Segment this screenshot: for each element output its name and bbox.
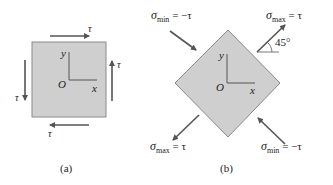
- caption-a: (a): [60, 162, 73, 175]
- sigma-max-arrow-bottom: [173, 115, 199, 140]
- sigma-min-arrow-top: [170, 31, 196, 50]
- caption-b: (b): [220, 162, 233, 175]
- tau-label-bottom: τ: [48, 128, 52, 139]
- sigma-min-label-top: σmin = −τ: [151, 8, 192, 24]
- tau-label-right: τ: [117, 59, 121, 70]
- tau-label-top: τ: [88, 23, 92, 34]
- axis-x-label-b: x: [249, 84, 255, 96]
- stress-element-diagram: y x O τ τ τ τ (a) y x O σmin = −τ 45° σm…: [0, 0, 333, 185]
- angle-label: 45°: [275, 36, 290, 48]
- axis-y-label-b: y: [218, 49, 224, 61]
- origin-label-b: O: [216, 81, 224, 93]
- origin-label: O: [58, 78, 66, 90]
- panel-b: y x O σmin = −τ 45° σmax = τ σmax = τ σm…: [150, 8, 302, 175]
- sigma-min-label-bottom: σmin = −τ: [261, 139, 302, 155]
- axis-y-label: y: [60, 47, 66, 59]
- sigma-max-label-bottom: σmax = τ: [150, 139, 186, 155]
- angle-arc: [267, 42, 272, 52]
- axis-x-label: x: [91, 82, 97, 94]
- tau-label-left: τ: [15, 92, 19, 103]
- panel-a: y x O τ τ τ τ (a): [15, 23, 121, 175]
- sigma-max-label-top: σmax = τ: [266, 8, 302, 24]
